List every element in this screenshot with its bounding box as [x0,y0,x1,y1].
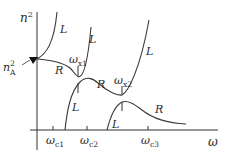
wx1-label: ωx1 [69,53,87,68]
label-L3: L [71,101,79,114]
y-axis-label: n2 [20,10,33,25]
wc1-label: ωc1 [46,134,64,149]
wc2-label: ωc2 [80,134,98,149]
na-squared-label: n2A [3,59,16,77]
wx2-label: ωx2 [114,74,132,89]
label-R1: R [54,64,63,77]
label-L1: L [59,23,67,36]
wc3-label: ωc3 [141,134,159,149]
label-L4: L [145,45,153,58]
dispersion-diagram: n2 ω n2A L R L ωx1 L R L ωx2 L R ωc1 ωc2… [0,0,233,155]
label-L5: L [111,118,119,131]
na-squared-marker: n2A [3,57,38,77]
x-axis-label: ω [208,135,218,149]
label-R2: R [96,78,105,91]
label-L2: L [88,33,96,46]
curve-L1 [37,12,57,59]
label-R3: R [154,103,163,116]
